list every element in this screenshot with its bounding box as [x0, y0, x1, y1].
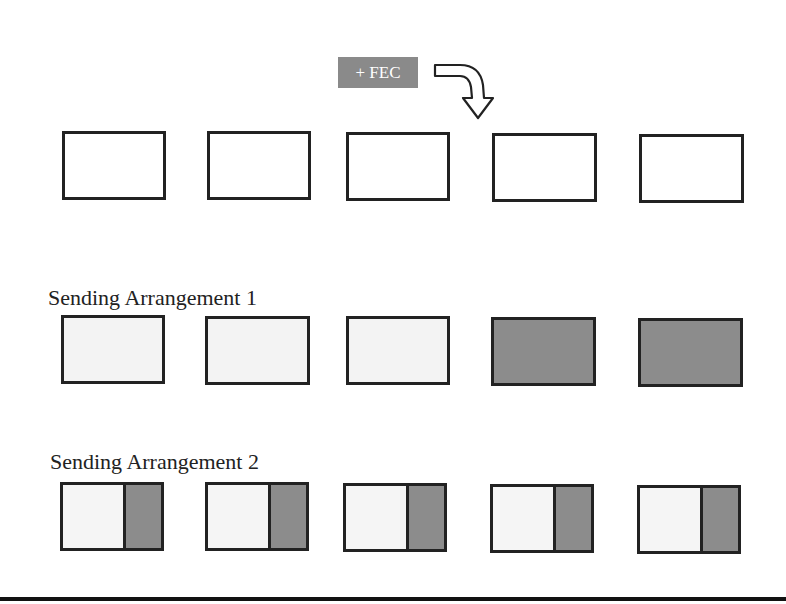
fec-part	[123, 485, 161, 548]
data-part	[346, 486, 410, 549]
data-part	[208, 485, 272, 548]
mixed-packet	[60, 482, 164, 551]
arrangement-1-label: Sending Arrangement 1	[48, 285, 257, 311]
packet-box	[492, 133, 597, 202]
fec-part	[406, 486, 444, 549]
bottom-rule	[0, 597, 786, 601]
arrangement-2-label: Sending Arrangement 2	[50, 449, 259, 475]
data-part	[63, 485, 127, 548]
data-packet	[61, 315, 165, 384]
packet-box	[639, 134, 744, 203]
mixed-packet	[205, 482, 309, 551]
data-packet	[346, 316, 450, 385]
packet-box	[346, 132, 450, 201]
data-part	[493, 487, 557, 550]
fec-packet	[491, 317, 596, 386]
fec-packet	[638, 318, 743, 387]
mixed-packet	[343, 483, 447, 552]
fec-part	[553, 487, 591, 550]
packet-box	[62, 131, 166, 200]
fec-label: + FEC	[338, 57, 418, 88]
mixed-packet	[637, 485, 741, 554]
data-packet	[205, 316, 310, 385]
curved-arrow-down-icon	[430, 60, 500, 125]
fec-part	[268, 485, 306, 548]
mixed-packet	[490, 484, 594, 553]
data-part	[640, 488, 704, 551]
fec-part	[700, 488, 738, 551]
packet-box	[207, 131, 311, 200]
